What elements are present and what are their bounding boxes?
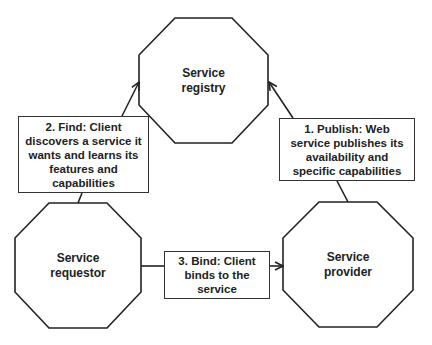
provider-label-1: Service (324, 250, 372, 265)
find-label-box: 2. Find: Client discovers a service it w… (18, 116, 149, 193)
requestor-label-1: Service (50, 251, 105, 266)
find-arrow-head-line (122, 82, 139, 116)
bind-label-box: 3. Bind: Client binds to the service (164, 251, 270, 299)
service-requestor-node: Service requestor (15, 203, 141, 328)
registry-label-1: Service (181, 66, 225, 81)
publish-arrow-head-line (269, 82, 293, 118)
find-arrow (78, 193, 82, 203)
publish-arrow (337, 181, 348, 202)
service-registry-node: Service registry (139, 18, 268, 143)
requestor-label-2: requestor (50, 266, 105, 281)
provider-label-2: provider (324, 265, 372, 280)
publish-label-box: 1. Publish: Web service publishes its av… (279, 118, 415, 181)
registry-label-2: registry (181, 81, 225, 96)
service-provider-node: Service provider (283, 202, 413, 327)
